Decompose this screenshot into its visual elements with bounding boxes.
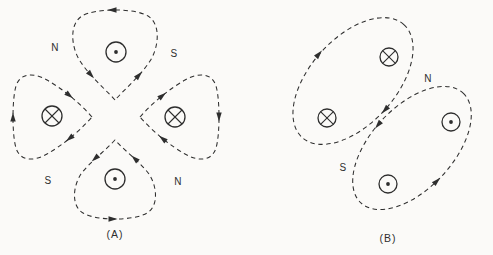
current-out-of-page-icon	[105, 169, 125, 189]
flux-loop-right	[140, 75, 219, 159]
flux-loop-top	[73, 10, 158, 100]
pole-label-top-left: N	[51, 42, 59, 53]
current-into-page-icon	[318, 109, 336, 127]
flux-direction-arrow	[109, 216, 118, 221]
diagram-b: N S (B)	[270, 0, 493, 244]
caption-b: (B)	[380, 232, 397, 244]
flux-direction-arrow	[10, 113, 15, 122]
magnetic-field-figure: N S S N (A)	[0, 0, 493, 255]
diagram-a: N S S N (A)	[10, 7, 221, 240]
caption-a: (A)	[107, 228, 124, 240]
current-out-of-page-icon	[442, 113, 460, 131]
flux-loop-lower	[331, 65, 493, 231]
current-into-page-icon	[380, 48, 398, 66]
flux-direction-arrow	[86, 70, 96, 80]
current-into-page-icon	[42, 106, 62, 126]
pole-label-gap-upper: N	[424, 73, 432, 84]
pole-label-bottom-left: S	[44, 175, 51, 186]
flux-loop-upper	[270, 0, 436, 166]
current-out-of-page-icon	[106, 42, 126, 62]
flux-direction-arrow	[314, 49, 324, 59]
pole-label-bottom-right: N	[174, 176, 182, 187]
current-into-page-icon	[165, 107, 185, 127]
pole-label-gap-lower: S	[339, 162, 346, 173]
flux-direction-arrow	[108, 7, 117, 12]
pole-label-top-right: S	[170, 48, 177, 59]
figure-canvas: N S S N (A)	[0, 0, 493, 255]
flux-direction-arrow	[216, 113, 221, 122]
current-out-of-page-icon	[379, 175, 397, 193]
